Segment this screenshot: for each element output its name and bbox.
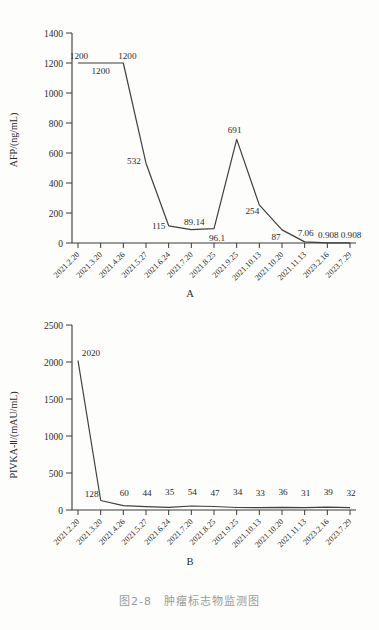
y-tick-a-1200: 1200 bbox=[44, 59, 63, 69]
afp-series-line bbox=[78, 63, 350, 243]
data-point-label: 44 bbox=[142, 488, 152, 498]
data-point-label: 128 bbox=[85, 489, 99, 499]
y-tick-b-2500: 2500 bbox=[44, 321, 63, 331]
data-point-label: 39 bbox=[324, 487, 334, 497]
y-tick-a-200: 200 bbox=[49, 209, 64, 219]
data-point-label: 87 bbox=[271, 232, 281, 242]
y-tick-b-1000: 1000 bbox=[44, 432, 63, 442]
y-tick-a-600: 600 bbox=[49, 149, 64, 159]
data-point-label: 0.908 bbox=[341, 230, 362, 240]
y-tick-b-1500: 1500 bbox=[44, 395, 63, 405]
y-tick-b-500: 500 bbox=[49, 469, 64, 479]
data-point-label: 32 bbox=[346, 488, 356, 498]
data-point-label: 47 bbox=[210, 488, 220, 498]
panel-b-letter: B bbox=[186, 556, 193, 567]
data-point-label: 89.14 bbox=[184, 217, 205, 227]
afp-data-labels: 12001200120053211589.1496.1691254877.060… bbox=[70, 51, 362, 243]
y-tick-a-1400: 1400 bbox=[44, 29, 63, 39]
data-point-label: 54 bbox=[188, 487, 198, 497]
data-point-label: 532 bbox=[127, 156, 141, 166]
data-point-label: 1200 bbox=[91, 66, 110, 76]
pivka-line-chart: PIVKA-Ⅱ/(mAU/mL) 2500 2000 1500 1000 500… bbox=[0, 305, 379, 590]
data-point-label: 33 bbox=[256, 488, 266, 498]
data-point-label: 36 bbox=[278, 487, 288, 497]
data-point-label: 35 bbox=[165, 487, 175, 497]
y-tick-a-800: 800 bbox=[49, 119, 64, 129]
data-point-label: 115 bbox=[152, 221, 166, 231]
afp-line-chart: AFP/(ng/mL) 1400 1200 1000 800 600 400 bbox=[0, 0, 379, 300]
y-tick-a-1000: 1000 bbox=[44, 89, 63, 99]
data-point-label: 34 bbox=[233, 487, 243, 497]
y-ticks-a: 1400 1200 1000 800 600 400 200 0 bbox=[44, 29, 72, 249]
data-point-label: 2020 bbox=[82, 348, 101, 358]
pivka-data-labels: 20201286044355447343336313932 bbox=[82, 348, 356, 499]
y-tick-b-2000: 2000 bbox=[44, 358, 63, 368]
data-point-label: 96.1 bbox=[209, 233, 225, 243]
y-tick-a-0: 0 bbox=[58, 239, 63, 249]
y-ticks-b: 2500 2000 1500 1000 500 0 bbox=[44, 321, 72, 516]
x-ticks-a: 2021.2.202021.3.202021.4.262021.5.272021… bbox=[52, 243, 354, 282]
x-ticks-b: 2021.2.202021.3.202021.4.262021.5.272021… bbox=[52, 510, 354, 549]
data-point-label: 1200 bbox=[70, 51, 89, 61]
data-point-label: 1200 bbox=[118, 51, 137, 61]
figure-container: AFP/(ng/mL) 1400 1200 1000 800 600 400 bbox=[0, 0, 379, 630]
chart-panel-a: AFP/(ng/mL) 1400 1200 1000 800 600 400 bbox=[0, 0, 379, 300]
pivka-series-line bbox=[78, 361, 350, 508]
y-axis-label-b: PIVKA-Ⅱ/(mAU/mL) bbox=[8, 391, 20, 478]
chart-panel-b: PIVKA-Ⅱ/(mAU/mL) 2500 2000 1500 1000 500… bbox=[0, 305, 379, 590]
figure-caption: 图2-8 肿瘤标志物监测图 bbox=[0, 592, 379, 608]
y-axis-label-a: AFP/(ng/mL) bbox=[8, 113, 20, 167]
y-tick-b-0: 0 bbox=[58, 506, 63, 516]
panel-a-letter: A bbox=[186, 288, 194, 299]
data-point-label: 691 bbox=[228, 125, 242, 135]
y-tick-a-400: 400 bbox=[49, 179, 64, 189]
data-point-label: 31 bbox=[301, 488, 311, 498]
data-point-label: 0.908 bbox=[318, 230, 339, 240]
data-point-label: 7.06 bbox=[298, 228, 314, 238]
data-point-label: 254 bbox=[245, 206, 259, 216]
data-point-label: 60 bbox=[120, 488, 130, 498]
